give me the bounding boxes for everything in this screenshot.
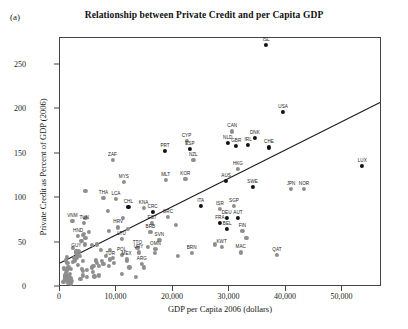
chart-title: Relationship between Private Credit and … — [0, 10, 408, 20]
data-point-label: HND — [73, 228, 83, 233]
data-point-label: TUR — [105, 251, 115, 256]
data-point-label: LUX — [358, 158, 367, 163]
y-tick-label: 50 — [0, 237, 26, 246]
x-tick-mark — [341, 286, 342, 291]
data-point-label: IRL — [244, 137, 251, 142]
data-point-label: MYS — [119, 174, 129, 179]
data-point-label: CHL — [124, 199, 133, 204]
y-tick-mark — [54, 63, 59, 64]
plot-area: ISLUSACANDNKNLDGBRIRLCHEESPCYPPRTLUXNZLZ… — [59, 37, 381, 286]
data-point-label: ISR — [216, 201, 224, 206]
y-tick-label: 150 — [0, 148, 26, 157]
x-tick-mark — [285, 286, 286, 291]
y-tick-mark — [54, 241, 59, 242]
data-point-label: CAN — [227, 123, 237, 128]
data-point-label: PRT — [160, 143, 169, 148]
x-tick-label: 20,000 — [161, 292, 183, 301]
y-tick-mark — [54, 152, 59, 153]
data-point-label: GBR — [231, 138, 241, 143]
data-point-label: ZAF — [108, 152, 117, 157]
x-tick-mark — [228, 286, 229, 291]
data-point-label: SGP — [229, 198, 239, 203]
data-point-label: HRV — [113, 219, 123, 224]
data-point-label: ITA — [197, 198, 204, 203]
x-tick-mark — [59, 286, 60, 291]
data-point-label: CHE — [264, 139, 274, 144]
data-point-label: KOR — [180, 171, 190, 176]
data-point-label: SWE — [247, 179, 258, 184]
data-point-label: MLT — [161, 172, 170, 177]
data-point-label: CRC — [148, 204, 158, 209]
data-point-label: BEL — [223, 221, 232, 226]
data-point-label: LCA — [111, 191, 120, 196]
data-point-label: ESP — [185, 141, 194, 146]
x-tick-label: 50,000 — [330, 292, 352, 301]
data-point-label: FIN — [239, 223, 247, 228]
x-tick-label: 10,000 — [104, 292, 126, 301]
x-tick-label: 40,000 — [274, 292, 296, 301]
data-point-label: AUS — [221, 173, 231, 178]
data-point-label: MEX — [122, 251, 132, 256]
data-point-label: HKG — [233, 161, 243, 166]
data-point-label: TUN — [79, 215, 89, 220]
data-point-label: VNM — [67, 213, 77, 218]
data-point-label: GRC — [163, 209, 173, 214]
y-tick-label: 0 — [0, 282, 26, 291]
data-point-label: ARG — [137, 256, 147, 261]
data-point-label: QAT — [272, 247, 281, 252]
data-point-label: SVN — [155, 232, 165, 237]
data-point-label: BRN — [187, 245, 197, 250]
data-point-label: USA — [278, 104, 288, 109]
y-tick-label: 100 — [0, 193, 26, 202]
data-point-label: NOR — [299, 181, 309, 186]
data-point-label: GUY — [71, 243, 81, 248]
data-point-label: DEU — [222, 210, 232, 215]
x-tick-mark — [115, 286, 116, 291]
data-point-label: AUT — [233, 210, 242, 215]
data-point-label: DNK — [250, 130, 260, 135]
data-point-label: KWT — [216, 239, 226, 244]
data-point-label: THA — [99, 190, 108, 195]
x-tick-label: 0 — [57, 292, 61, 301]
figure-root: (a) Relationship between Private Credit … — [0, 0, 408, 329]
data-point-label: URY — [134, 244, 144, 249]
data-point-label: BRB — [146, 224, 156, 229]
data-point-label: MAC — [236, 244, 246, 249]
x-axis-label: GDP per Capita 2006 (dollars) — [59, 304, 381, 314]
y-tick-mark — [54, 197, 59, 198]
data-point-label: ISL — [263, 37, 270, 42]
data-point-label: OMN — [150, 241, 161, 246]
data-point-label: FRA — [215, 215, 224, 220]
y-tick-label: 200 — [0, 104, 26, 113]
y-tick-label: 250 — [0, 59, 26, 68]
data-point-label: NZL — [189, 152, 198, 157]
y-tick-mark — [54, 108, 59, 109]
data-point-label: JPN — [287, 181, 296, 186]
data-point-label: LTU — [117, 231, 126, 236]
data-point-label: EST — [148, 215, 157, 220]
x-tick-label: 30,000 — [217, 292, 239, 301]
y-axis-label: Private Credit as Percent of GDP (2006) — [38, 52, 48, 282]
x-tick-mark — [172, 286, 173, 291]
data-point-label: CYP — [182, 133, 192, 138]
